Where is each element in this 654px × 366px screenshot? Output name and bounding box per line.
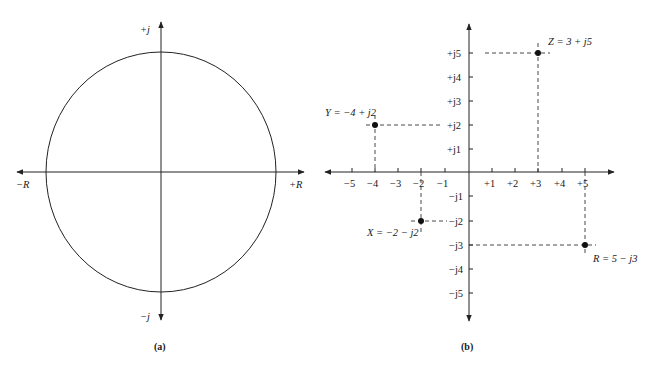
caption-b: (b) (461, 341, 473, 353)
svg-text:−j1: −j1 (449, 191, 463, 202)
x-tick-labels: −5 −4 −3 −2 −1 +1 +2 +3 +4 +5 (344, 178, 588, 189)
svg-text:+2: +2 (507, 178, 518, 189)
svg-text:+j4: +j4 (447, 72, 462, 83)
svg-text:+4: +4 (554, 178, 566, 189)
point-y-label: Y = −4 + j2 (325, 107, 377, 118)
point-z-label: Z = 3 + j5 (548, 36, 592, 47)
svg-text:−j5: −j5 (449, 288, 463, 299)
svg-text:−j3: −j3 (449, 240, 463, 251)
label-neg-r: −R (16, 179, 30, 190)
svg-text:−5: −5 (344, 178, 355, 189)
point-r-marker (582, 242, 588, 248)
point-z: Z = 3 + j5 (485, 36, 592, 172)
svg-text:−j4: −j4 (449, 264, 464, 275)
svg-text:−j2: −j2 (449, 216, 463, 227)
svg-text:−4: −4 (367, 178, 379, 189)
point-x-marker (418, 218, 424, 224)
point-y-marker (372, 122, 378, 128)
panel-b: −5 −4 −3 −2 −1 +1 +2 +3 +4 +5 +j5 +j4 (325, 24, 638, 353)
label-neg-j: −j (140, 311, 150, 322)
point-x-label: X = −2 − j2 (366, 227, 419, 238)
point-y: Y = −4 + j2 (325, 107, 443, 172)
svg-text:−2: −2 (413, 178, 424, 189)
panel-a: +j −j −R +R (a) (16, 22, 304, 353)
svg-text:+j3: +j3 (447, 96, 461, 107)
label-pos-j: +j (140, 24, 150, 35)
caption-a: (a) (154, 341, 166, 353)
svg-text:+1: +1 (484, 178, 495, 189)
svg-text:+3: +3 (530, 178, 541, 189)
point-z-marker (535, 50, 541, 56)
y-tick-labels: +j5 +j4 +j3 +j2 +j1 −j1 −j2 −j3 −j4 −j5 (447, 48, 464, 299)
svg-text:+5: +5 (577, 178, 588, 189)
svg-text:+j5: +j5 (447, 48, 461, 59)
svg-text:+j2: +j2 (447, 120, 461, 131)
svg-text:+j1: +j1 (447, 144, 461, 155)
svg-text:−1: −1 (437, 178, 448, 189)
figure-canvas: +j −j −R +R (a) −5 −4 −3 −2 −1 + (0, 0, 654, 366)
label-pos-r: +R (289, 179, 303, 190)
svg-text:−3: −3 (390, 178, 401, 189)
point-r-label: R = 5 − j3 (592, 253, 638, 264)
y-ticks (469, 53, 473, 293)
